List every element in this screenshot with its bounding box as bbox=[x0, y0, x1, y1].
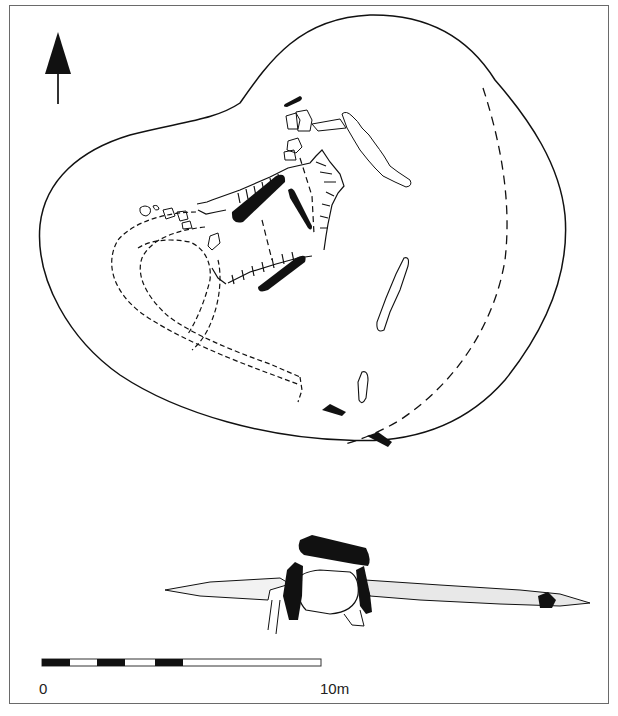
scale-bar bbox=[42, 659, 321, 666]
north-arrow-icon bbox=[45, 32, 71, 104]
orthostats bbox=[232, 175, 312, 292]
dashed-boundary bbox=[345, 88, 507, 444]
scale-end-label: 10m bbox=[320, 680, 349, 697]
site-plan-drawing bbox=[0, 0, 618, 716]
stone-top bbox=[284, 96, 302, 107]
scale-start-label: 0 bbox=[39, 680, 47, 697]
section-view bbox=[165, 535, 590, 634]
stone-rows bbox=[358, 258, 409, 403]
mound-outline bbox=[40, 15, 566, 441]
curving-wall bbox=[112, 212, 302, 402]
